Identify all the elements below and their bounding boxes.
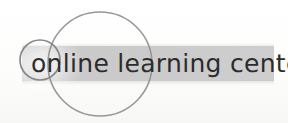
logo-canvas: online learning center bbox=[0, 0, 288, 123]
wordmark-text: online learning center bbox=[31, 47, 288, 81]
